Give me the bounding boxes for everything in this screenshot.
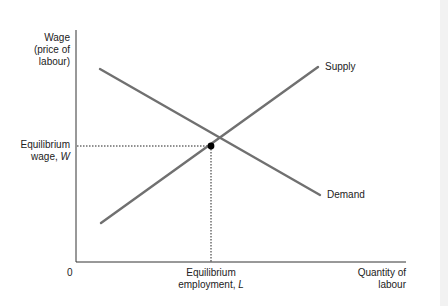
- equilibrium-wage-label-text: wage,: [31, 151, 60, 162]
- equilibrium-employment-label: Equilibrium employment, L: [171, 267, 251, 291]
- equilibrium-point: [208, 143, 215, 150]
- y-axis-label-line2: (price of: [18, 44, 70, 56]
- equilibrium-employment-label-text: employment,: [178, 279, 238, 290]
- equilibrium-employment-variable: L: [238, 279, 244, 290]
- equilibrium-employment-label-line1: Equilibrium: [171, 267, 251, 279]
- equilibrium-wage-label-line1: Equilibrium: [4, 139, 70, 151]
- equilibrium-wage-variable: W: [61, 151, 70, 162]
- y-axis-label-line3: labour): [18, 56, 70, 68]
- demand-label: Demand: [327, 189, 365, 201]
- y-axis-label: Wage (price of labour): [18, 32, 70, 68]
- x-axis-label-line1: Quantity of: [340, 267, 406, 279]
- equilibrium-wage-label: Equilibrium wage, W: [4, 139, 70, 163]
- supply-label: Supply: [325, 61, 356, 73]
- x-axis-label-line2: labour: [340, 279, 406, 291]
- x-axis-label: Quantity of labour: [340, 267, 406, 291]
- y-axis-label-line1: Wage: [18, 32, 70, 44]
- origin-label: 0: [67, 267, 73, 279]
